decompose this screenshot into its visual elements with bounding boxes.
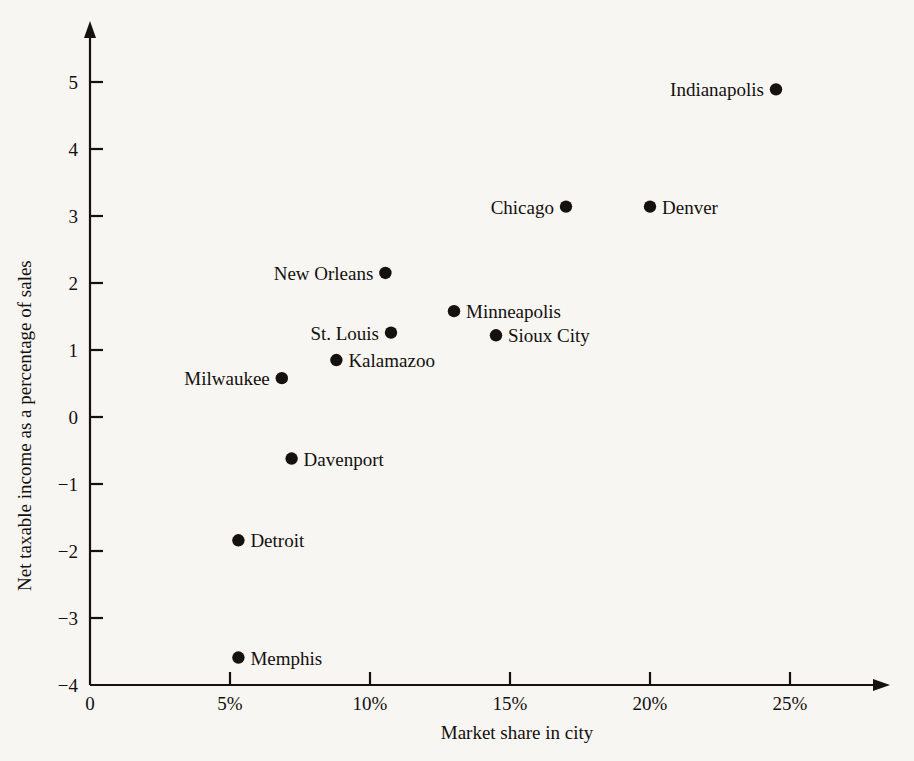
x-tick-label: 25% xyxy=(773,694,808,713)
data-point-label: St. Louis xyxy=(310,323,379,342)
data-point-marker[interactable] xyxy=(385,326,397,338)
x-tick-label: 0 xyxy=(85,694,95,713)
y-tick-label: 4 xyxy=(69,140,79,159)
data-point-marker[interactable] xyxy=(379,267,391,279)
data-point-marker[interactable] xyxy=(560,200,572,212)
y-tick-label: −3 xyxy=(58,609,78,628)
data-point-label: Detroit xyxy=(250,531,304,550)
y-tick-label: 5 xyxy=(69,73,79,92)
data-point-marker[interactable] xyxy=(232,651,244,663)
data-point-label: New Orleans xyxy=(274,263,374,282)
x-tick-label: 20% xyxy=(633,694,668,713)
data-point-marker[interactable] xyxy=(644,200,656,212)
chart-canvas xyxy=(0,0,914,761)
y-tick-label: −2 xyxy=(58,542,78,561)
y-tick-label: 2 xyxy=(69,274,79,293)
data-points xyxy=(232,83,782,664)
data-point-marker[interactable] xyxy=(448,305,460,317)
x-tick-label: 5% xyxy=(217,694,242,713)
data-point-label: Milwaukee xyxy=(184,369,269,388)
data-point-label: Minneapolis xyxy=(466,302,561,321)
x-tick-label: 15% xyxy=(493,694,528,713)
data-point-marker[interactable] xyxy=(232,534,244,546)
data-point-label: Indianapolis xyxy=(670,80,764,99)
axes xyxy=(84,21,890,691)
x-axis-title: Market share in city xyxy=(441,722,593,744)
data-point-label: Davenport xyxy=(304,449,384,468)
data-point-marker[interactable] xyxy=(285,452,297,464)
scatter-chart: 543210−1−2−3−405%10%15%20%25% Indianapol… xyxy=(0,0,914,761)
data-point-marker[interactable] xyxy=(770,83,782,95)
data-point-label: Chicago xyxy=(491,197,554,216)
y-tick-label: 3 xyxy=(69,207,79,226)
x-tick-label: 10% xyxy=(353,694,388,713)
data-point-label: Kalamazoo xyxy=(348,351,435,370)
data-point-label: Denver xyxy=(662,197,718,216)
data-point-marker[interactable] xyxy=(490,329,502,341)
data-point-label: Sioux City xyxy=(508,326,590,345)
x-axis-arrow-icon xyxy=(873,679,890,691)
data-point-label: Memphis xyxy=(250,648,322,667)
y-axis-arrow-icon xyxy=(84,21,96,38)
y-tick-label: −4 xyxy=(58,676,78,695)
y-tick-label: 0 xyxy=(69,408,79,427)
y-axis-title: Net taxable income as a percentage of sa… xyxy=(14,260,36,591)
data-point-marker[interactable] xyxy=(276,372,288,384)
y-tick-label: −1 xyxy=(58,475,78,494)
data-point-marker[interactable] xyxy=(330,354,342,366)
y-tick-label: 1 xyxy=(69,341,79,360)
